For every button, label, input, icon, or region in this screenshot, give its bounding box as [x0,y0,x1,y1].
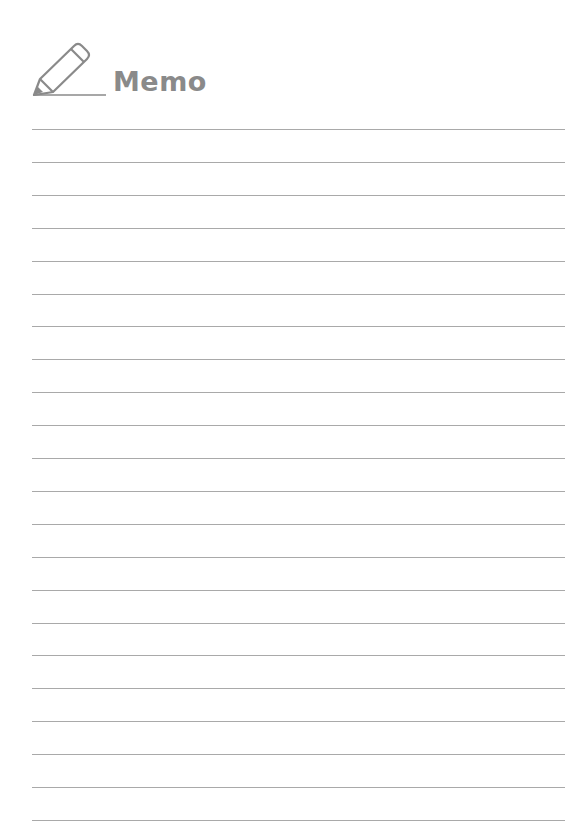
ruled-line [32,261,565,262]
ruled-line [32,129,565,130]
ruled-line [32,392,565,393]
ruled-line [32,491,565,492]
ruled-line [32,557,565,558]
ruled-line [32,590,565,591]
ruled-line [32,787,565,788]
ruled-line [32,721,565,722]
ruled-line [32,359,565,360]
ruled-line [32,162,565,163]
ruled-line [32,655,565,656]
ruled-line [32,425,565,426]
ruled-line [32,754,565,755]
ruled-lines [32,0,565,829]
ruled-line [32,458,565,459]
ruled-line [32,294,565,295]
ruled-line [32,623,565,624]
ruled-line [32,688,565,689]
ruled-line [32,228,565,229]
ruled-line [32,820,565,821]
ruled-line [32,326,565,327]
ruled-line [32,195,565,196]
ruled-line [32,524,565,525]
